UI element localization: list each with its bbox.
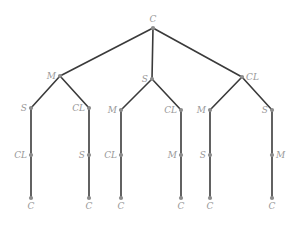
tree-node-c[interactable] bbox=[119, 196, 123, 200]
tree-node-c[interactable] bbox=[208, 196, 212, 200]
tree-node-label: S bbox=[262, 106, 268, 115]
tree-node-cl[interactable] bbox=[87, 106, 91, 110]
tree-node-label: M bbox=[168, 151, 177, 160]
tree-node-s[interactable] bbox=[29, 106, 33, 110]
edge-layer bbox=[31, 28, 272, 198]
tree-edge bbox=[31, 76, 60, 108]
tree-node-label: M bbox=[47, 72, 56, 81]
tree-node-label: C bbox=[28, 202, 35, 211]
tree-node-cl[interactable] bbox=[240, 75, 244, 79]
tree-node-c[interactable] bbox=[179, 196, 183, 200]
tree-edge bbox=[210, 77, 242, 110]
tree-node-label: CL bbox=[14, 151, 27, 160]
tree-node-m[interactable] bbox=[208, 108, 212, 112]
node-layer bbox=[29, 26, 274, 200]
tree-node-c[interactable] bbox=[151, 26, 155, 30]
tree-node-label: S bbox=[200, 151, 206, 160]
tree-node-m[interactable] bbox=[119, 108, 123, 112]
tree-node-label: S bbox=[142, 75, 148, 84]
tree-graphics-layer bbox=[0, 0, 296, 226]
tree-diagram: CMSCLSCLMCLMSCLSCLMSMCCCCCC bbox=[0, 0, 296, 226]
tree-node-label: C bbox=[118, 202, 125, 211]
tree-node-label: CL bbox=[104, 151, 117, 160]
tree-node-label: CL bbox=[246, 73, 259, 82]
tree-node-cl[interactable] bbox=[29, 153, 33, 157]
tree-node-label: C bbox=[269, 202, 276, 211]
tree-edge bbox=[152, 28, 153, 79]
tree-node-s[interactable] bbox=[270, 108, 274, 112]
tree-node-m[interactable] bbox=[58, 74, 62, 78]
tree-node-cl[interactable] bbox=[119, 153, 123, 157]
tree-node-m[interactable] bbox=[270, 153, 274, 157]
tree-node-c[interactable] bbox=[87, 196, 91, 200]
tree-node-cl[interactable] bbox=[179, 108, 183, 112]
tree-edge bbox=[121, 79, 152, 110]
tree-node-label: C bbox=[178, 202, 185, 211]
tree-node-s[interactable] bbox=[150, 77, 154, 81]
tree-node-label: M bbox=[197, 106, 206, 115]
tree-node-c[interactable] bbox=[29, 196, 33, 200]
tree-edge bbox=[60, 28, 153, 76]
tree-node-label: CL bbox=[164, 106, 177, 115]
tree-node-label: S bbox=[79, 151, 85, 160]
tree-node-label: C bbox=[150, 15, 157, 24]
tree-node-s[interactable] bbox=[87, 153, 91, 157]
tree-node-c[interactable] bbox=[270, 196, 274, 200]
tree-node-m[interactable] bbox=[179, 153, 183, 157]
tree-node-s[interactable] bbox=[208, 153, 212, 157]
tree-node-label: M bbox=[276, 151, 285, 160]
tree-node-label: C bbox=[207, 202, 214, 211]
tree-node-label: M bbox=[108, 106, 117, 115]
tree-edge bbox=[153, 28, 242, 77]
tree-node-label: C bbox=[86, 202, 93, 211]
tree-node-label: S bbox=[21, 104, 27, 113]
tree-node-label: CL bbox=[72, 104, 85, 113]
